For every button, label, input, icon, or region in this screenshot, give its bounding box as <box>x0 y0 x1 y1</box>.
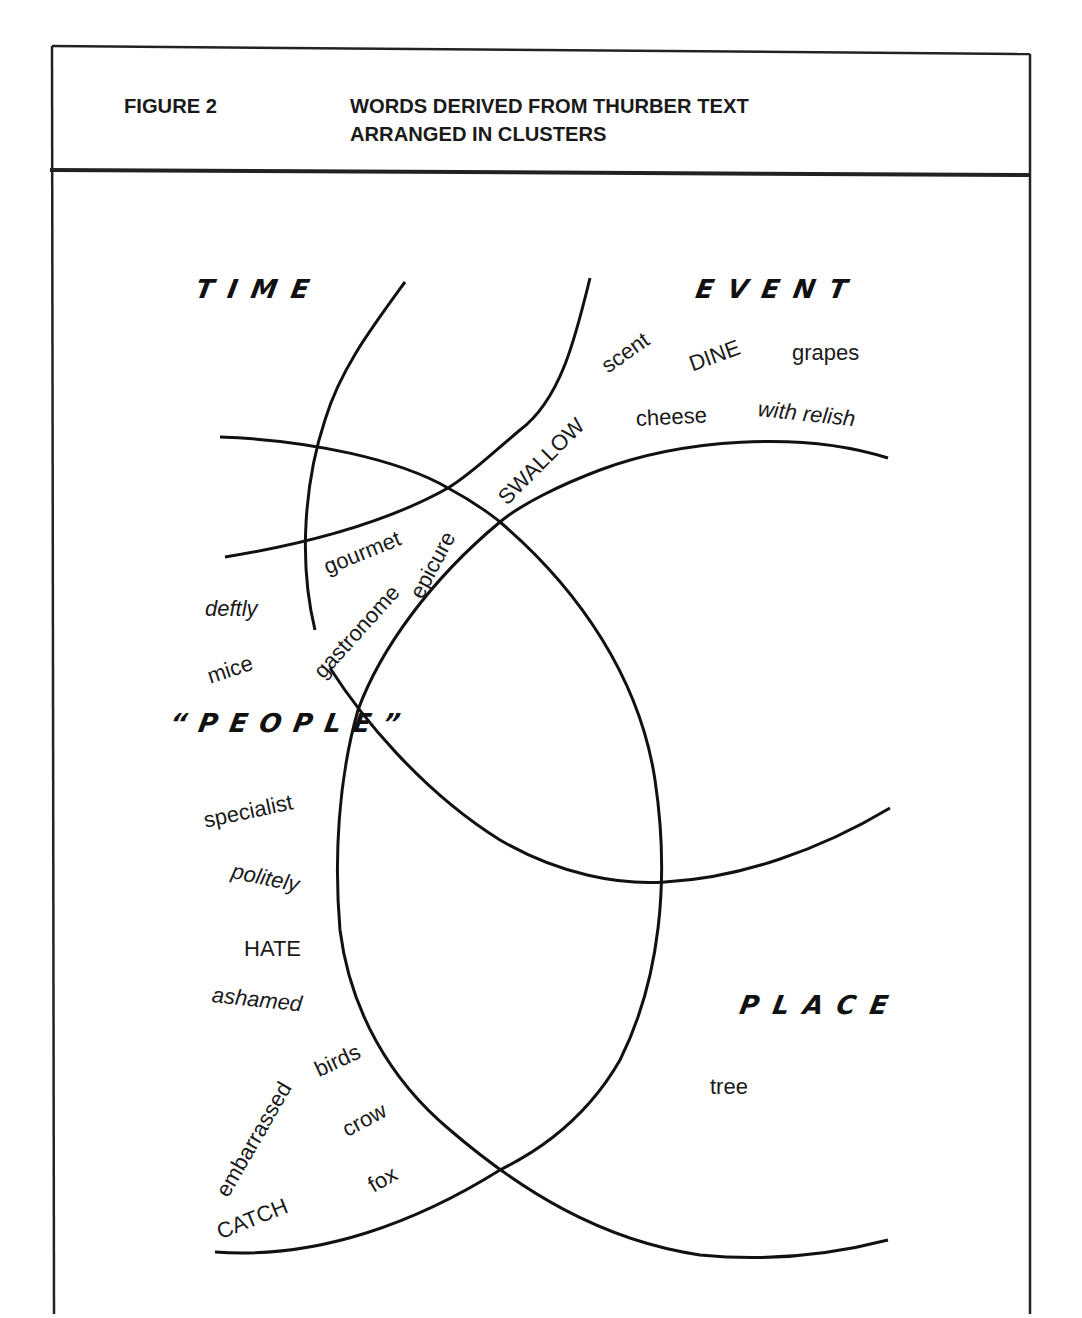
frame-top-border <box>52 46 1030 54</box>
cluster-boundary-people-event <box>330 668 890 883</box>
figure-title-line2: ARRANGED IN CLUSTERS <box>350 120 607 148</box>
word-cheese: cheese <box>635 402 707 432</box>
cluster-boundary-time-outer <box>225 278 590 557</box>
frame-left-border <box>52 46 54 1314</box>
figure-title-line1: WORDS DERIVED FROM THURBER TEXT <box>350 92 749 120</box>
word-tree: tree <box>710 1074 748 1100</box>
cluster-boundary-time-inner <box>305 282 405 630</box>
category-label-people: “PEOPLE” <box>167 708 414 738</box>
category-label-time: TIME <box>193 274 325 304</box>
category-label-event: EVENT <box>693 274 863 304</box>
header-divider <box>50 170 1030 175</box>
figure-frame <box>0 0 1082 1318</box>
word-deftly: deftly <box>205 596 258 622</box>
word-hate: HATE <box>244 936 301 962</box>
figure-label: FIGURE 2 <box>124 92 217 120</box>
word-grapes: grapes <box>792 340 859 366</box>
category-label-place: PLACE <box>737 990 904 1020</box>
